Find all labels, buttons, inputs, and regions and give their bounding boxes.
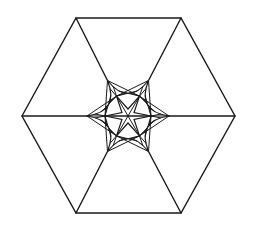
hexagon-star-figure <box>0 0 253 231</box>
